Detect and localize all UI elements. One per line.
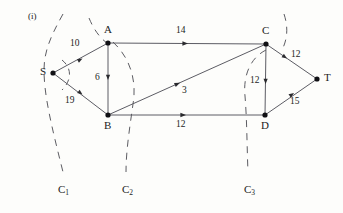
edge-label-S-B: 19 bbox=[65, 96, 75, 106]
edge-label-A-B: 6 bbox=[95, 73, 100, 83]
node-dot-C[interactable] bbox=[263, 41, 268, 46]
edge-label-S-A: 10 bbox=[70, 39, 80, 49]
edge-label-B-C: 3 bbox=[182, 86, 187, 96]
node-dot-A[interactable] bbox=[105, 40, 110, 45]
edge-label-C-D: 12 bbox=[250, 76, 260, 86]
node-label-T: T bbox=[324, 72, 331, 83]
node-label-D: D bbox=[261, 120, 269, 131]
arrowhead-B-D bbox=[180, 113, 186, 117]
cut-curve-C3-main bbox=[245, 50, 266, 172]
edge-B-C bbox=[108, 44, 266, 115]
edge-label-D-T: 15 bbox=[290, 97, 300, 107]
arrowhead-S-A bbox=[77, 57, 84, 63]
edge-S-A bbox=[53, 43, 108, 73]
edge-label-A-C: 14 bbox=[176, 26, 186, 36]
network-diagram-canvas bbox=[0, 0, 343, 213]
node-label-B: B bbox=[104, 120, 111, 131]
cut-label-C2-sub: 2 bbox=[129, 188, 133, 197]
arrowhead-B-C bbox=[174, 81, 181, 87]
edge-label-B-D: 12 bbox=[176, 120, 186, 130]
edge-label-C-T: 12 bbox=[291, 50, 301, 60]
node-dot-B[interactable] bbox=[105, 112, 110, 117]
node-dot-T[interactable] bbox=[314, 76, 319, 81]
arrowhead-C-D bbox=[264, 79, 268, 84]
node-dot-S[interactable] bbox=[50, 70, 55, 75]
cut-curve-C1 bbox=[44, 14, 63, 172]
cut-label-C3: C3 bbox=[244, 184, 255, 195]
arrowhead-A-C bbox=[182, 41, 188, 45]
cut-label-C2: C2 bbox=[122, 184, 133, 195]
cut-curve-C3 bbox=[282, 14, 287, 50]
node-dot-D[interactable] bbox=[262, 112, 267, 117]
cut-curve-C2-main bbox=[113, 42, 134, 172]
arrowhead-C-T bbox=[282, 54, 289, 60]
cut-label-C1-sub: 1 bbox=[65, 188, 69, 197]
cut-label-C1: C1 bbox=[58, 184, 69, 195]
cut-label-C3-sub: 3 bbox=[251, 188, 255, 197]
edge-layer bbox=[53, 43, 317, 115]
node-label-S: S bbox=[40, 66, 46, 77]
node-label-C: C bbox=[262, 25, 269, 36]
arrowhead-A-B bbox=[106, 75, 110, 80]
arrowhead-layer bbox=[77, 41, 295, 117]
node-label-A: A bbox=[104, 24, 112, 35]
figure-part-label: (i) bbox=[28, 12, 37, 21]
